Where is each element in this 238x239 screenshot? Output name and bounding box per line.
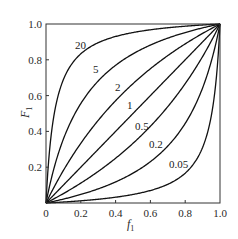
x-tick-label: 0 [43, 207, 49, 219]
curves-group [46, 24, 220, 203]
x-axis-label: f1 [127, 217, 134, 233]
curve-label: 5 [93, 63, 99, 75]
curve-label: 0.05 [169, 158, 189, 170]
curve-label: 1 [127, 99, 133, 111]
y-tick-label: 0.8 [28, 54, 42, 66]
y-tick-label: 1.0 [28, 18, 42, 30]
x-tick-label: 0.6 [144, 207, 158, 219]
y-tick-label: 0.2 [28, 161, 42, 173]
x-tick-label: 1.0 [213, 207, 227, 219]
curve-label: 2 [115, 81, 121, 93]
y-tick-label: 0.4 [28, 125, 42, 137]
curve-r-1 [46, 24, 220, 203]
curve-label: 0.2 [149, 138, 163, 150]
y-axis-label: F1 [18, 107, 34, 119]
curve-label: 0.5 [135, 120, 149, 132]
x-tick-label: 0.8 [178, 207, 192, 219]
curve-label: 20 [75, 39, 87, 51]
y-tick-label: 0.6 [28, 90, 42, 102]
x-tick-label: 0.4 [109, 207, 123, 219]
curve-labels: 205210.50.20.05 [75, 39, 189, 170]
copolymer-composition-chart: 00.20.40.60.81.0 0.20.40.60.81.0 205210.… [0, 0, 238, 239]
x-tick-label: 0.2 [74, 207, 88, 219]
